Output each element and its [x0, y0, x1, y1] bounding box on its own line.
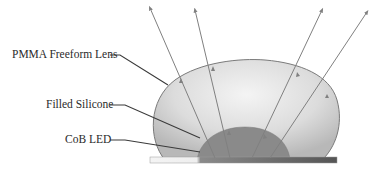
- led-lens-diagram: PMMA Freeform Lens Filled Silicone CoB L…: [0, 0, 379, 177]
- cob-led-base: [150, 157, 337, 163]
- led-label: CoB LED: [65, 134, 111, 146]
- lens-leader: [110, 55, 168, 85]
- silicone-label: Filled Silicone: [46, 99, 113, 111]
- diagram-graphic: [0, 0, 379, 177]
- lens-label: PMMA Freeform Lens: [12, 49, 117, 61]
